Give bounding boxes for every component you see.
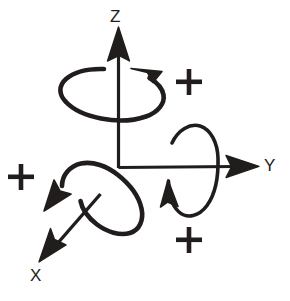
plus-sign-y [176, 227, 202, 253]
axis-label-x: X [30, 267, 41, 284]
z-axis-group [108, 27, 130, 168]
axes-and-rotations-svg [0, 0, 290, 301]
y-axis-group [119, 156, 260, 178]
rotation-about-y-group [161, 125, 219, 216]
axis-label-y: Y [264, 157, 275, 174]
plus-sign-z [176, 69, 202, 95]
coordinate-system-diagram: Z Y X [0, 0, 290, 301]
rotation-about-z-group [60, 69, 163, 121]
rotation-about-z-ellipse [60, 69, 163, 120]
plus-sign-x [8, 164, 34, 190]
rotation-about-z-arrowhead [131, 69, 162, 83]
x-axis-arrowhead [39, 229, 66, 263]
rotation-about-y-arrowhead [161, 180, 179, 207]
rotation-about-x-arrowhead [44, 180, 71, 211]
axis-label-z: Z [110, 8, 120, 25]
y-axis-arrowhead [226, 156, 259, 178]
rotation-about-x-group [44, 163, 142, 234]
z-axis-arrowhead [108, 27, 130, 61]
